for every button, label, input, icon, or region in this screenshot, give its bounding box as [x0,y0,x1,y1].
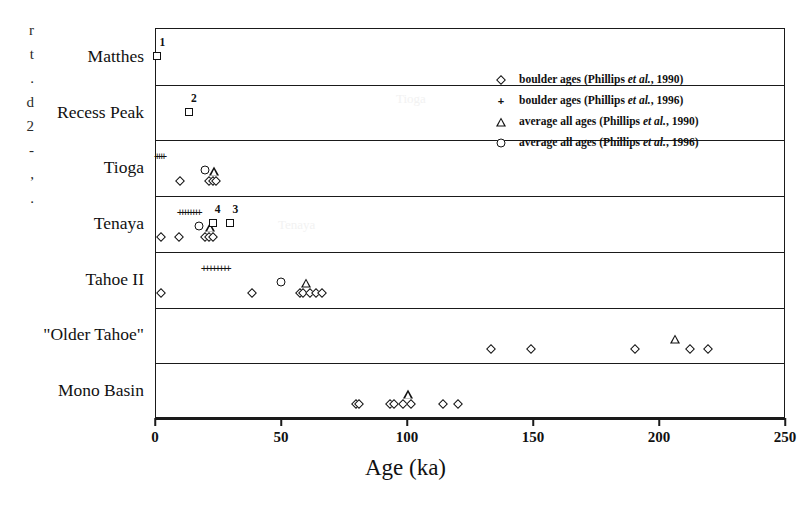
legend-item: average all ages (Phillips et al., 1990) [501,111,699,132]
diamond-icon [630,344,640,354]
y-axis-label: "Older Tahoe" [0,324,152,345]
x-axis-tick [154,418,156,426]
x-axis-title: Age (ka) [0,455,811,481]
y-axis-label: Tioga [0,157,152,178]
legend-item: boulder ages (Phillips et al., 1996) [501,90,699,111]
plus-icon [498,97,505,104]
diamond-icon [156,232,166,242]
x-axis-tick [280,418,282,426]
circle-icon [201,166,210,175]
diamond-icon [156,288,166,298]
diamond-icon [703,344,713,354]
square-icon [185,108,193,116]
plus-icon [161,153,168,160]
x-axis-tick-label: 250 [774,429,797,446]
legend-label: average all ages (Phillips et al., 1990) [519,111,699,132]
triangle-icon [301,278,311,287]
x-axis-tick-label: 0 [151,429,159,446]
figure-scatter-chart: r t . d 2 - , . Tioga Tenaya 1243 boulde… [0,0,811,515]
diamond-icon [453,399,463,409]
diamond-icon [496,75,506,85]
diamond-icon [486,344,496,354]
point-annotation-label: 3 [232,203,238,215]
x-axis-tick-label: 150 [522,429,545,446]
chart-legend: boulder ages (Phillips et al., 1990) bou… [501,69,699,153]
diamond-icon [527,344,537,354]
y-axis-label: Tenaya [0,213,152,234]
y-axis-label: Mono Basin [0,380,152,401]
scan-watermark: Tenaya [278,217,315,233]
diamond-icon [438,399,448,409]
square-icon [209,219,217,227]
legend-label: boulder ages (Phillips et al., 1990) [519,69,683,90]
circle-icon [194,222,203,231]
x-axis-tick [784,418,786,426]
diamond-icon [175,176,185,186]
y-axis-label: Tahoe II [0,268,152,289]
caption-fragment: r [0,22,34,39]
plus-icon [225,264,232,271]
caption-fragment: . [0,190,34,207]
caption-fragment: . [0,70,34,87]
x-axis-tick [406,418,408,426]
scan-watermark: Tioga [396,91,426,107]
legend-item: boulder ages (Phillips et al., 1990) [501,69,699,90]
row-separator [156,252,784,253]
x-axis-tick [532,418,534,426]
x-axis-tick [658,418,660,426]
plus-icon [196,209,203,216]
x-axis-tick-label: 200 [648,429,671,446]
legend-label: average all ages (Phillips et al., 1996) [519,132,699,153]
point-annotation-label: 1 [159,36,165,48]
diamond-icon [317,288,327,298]
plot-area: Tioga Tenaya 1243 boulder ages (Phillips… [155,28,785,418]
square-icon [153,52,161,60]
y-axis-label: Matthes [0,45,152,66]
triangle-icon [496,117,506,126]
square-icon [226,219,234,227]
diamond-icon [174,232,184,242]
x-axis [155,418,785,420]
row-separator [156,308,784,309]
row-separator [156,196,784,197]
y-axis-label: Recess Peak [0,101,152,122]
diamond-icon [247,288,257,298]
point-annotation-label: 4 [215,203,221,215]
triangle-icon [209,167,219,176]
diamond-icon [406,399,416,409]
triangle-icon [403,390,413,399]
circle-icon [497,138,506,147]
point-annotation-label: 2 [191,92,197,104]
legend-label: boulder ages (Phillips et al., 1996) [519,90,683,111]
circle-icon [276,277,285,286]
diamond-icon [685,344,695,354]
row-separator [156,363,784,364]
triangle-icon [670,334,680,343]
legend-item: average all ages (Phillips et al., 1996) [501,132,699,153]
x-axis-tick-label: 50 [274,429,289,446]
x-axis-tick-label: 100 [396,429,419,446]
